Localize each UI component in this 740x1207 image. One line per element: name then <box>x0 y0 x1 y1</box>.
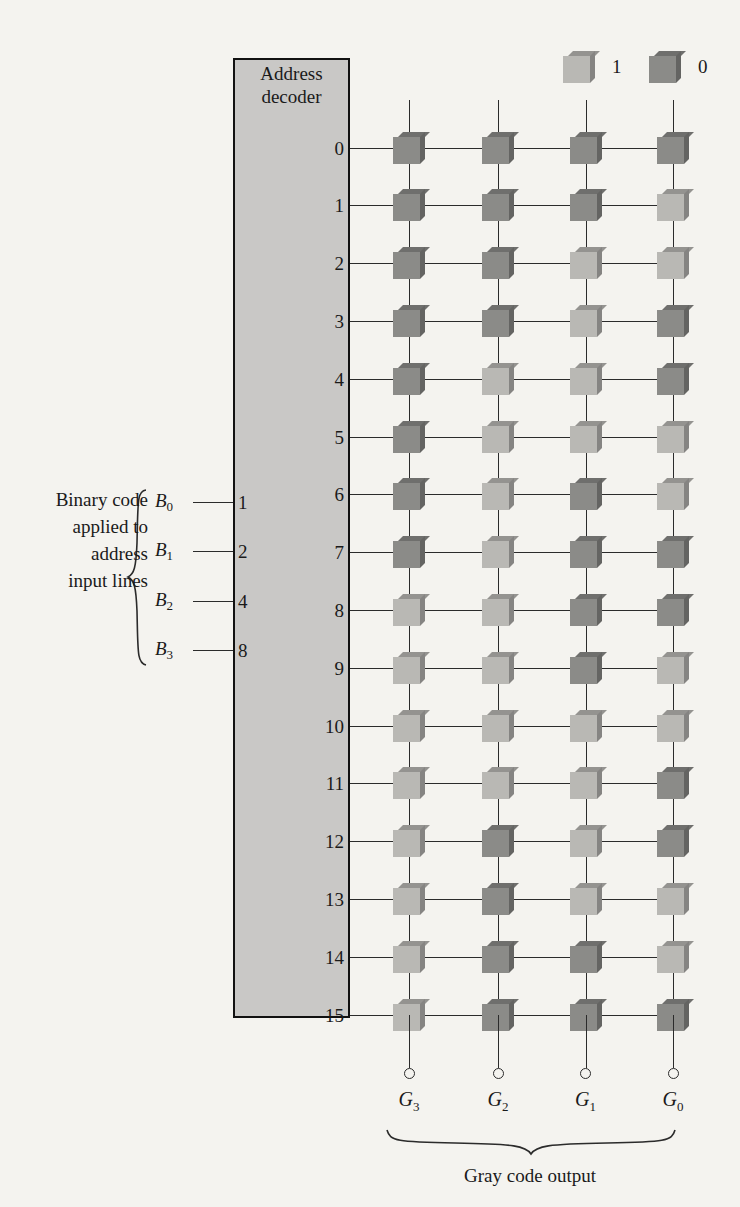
decoder-output-row-15: 15 <box>288 1005 344 1024</box>
cube-front-face <box>657 772 684 799</box>
cube-side-face <box>684 536 689 568</box>
input-caption-line-4: input lines <box>0 568 148 595</box>
cube-side-face <box>509 478 514 510</box>
input-label-b0: B0 <box>155 491 173 514</box>
decoder-output-row-4: 4 <box>288 369 344 388</box>
cube-side-face <box>420 652 425 684</box>
cube-front-face <box>393 830 420 857</box>
cube-front-face <box>570 715 597 742</box>
cube-side-face <box>420 421 425 453</box>
output-terminal-g3[interactable] <box>404 1068 415 1079</box>
legend-item: 0 <box>648 48 708 84</box>
cube-side-face <box>509 594 514 626</box>
cell-14-G1 <box>570 941 602 973</box>
cell-3-G2 <box>482 305 514 337</box>
cube-side-face <box>684 421 689 453</box>
cell-13-G3 <box>393 883 425 915</box>
cube-front-face <box>563 56 590 83</box>
cube-side-face <box>597 652 602 684</box>
cell-3-G1 <box>570 305 602 337</box>
cube-side-face <box>509 767 514 799</box>
output-terminal-g2[interactable] <box>493 1068 504 1079</box>
cell-0-G1 <box>570 132 602 164</box>
decoder-title-line1: Address <box>233 62 350 85</box>
cube-side-face <box>684 363 689 395</box>
cell-1-G1 <box>570 189 602 221</box>
decoder-title-line2: decoder <box>233 85 350 108</box>
cell-7-G0 <box>657 536 689 568</box>
cube-front-face <box>482 657 509 684</box>
cube-side-face <box>509 710 514 742</box>
cube-side-face <box>420 305 425 337</box>
cube-front-face <box>482 830 509 857</box>
cube-front-face <box>657 657 684 684</box>
input-weight-4: 4 <box>238 592 278 611</box>
output-label-g2: G2 <box>488 1089 509 1113</box>
cube-front-face <box>570 772 597 799</box>
cube-front-face <box>570 1004 597 1031</box>
cube-side-face <box>684 999 689 1031</box>
cell-0-G3 <box>393 132 425 164</box>
cube-front-face <box>570 426 597 453</box>
cell-7-G1 <box>570 536 602 568</box>
cell-11-G1 <box>570 767 602 799</box>
cube-side-face <box>684 710 689 742</box>
legend-label: 0 <box>698 57 708 76</box>
cube-front-face <box>657 888 684 915</box>
cube-side-face <box>597 132 602 164</box>
cube-front-face <box>482 310 509 337</box>
cube-side-face <box>597 189 602 221</box>
decoder-output-row-11: 11 <box>288 774 344 793</box>
cube-side-face <box>420 941 425 973</box>
cell-9-G2 <box>482 652 514 684</box>
cube-side-face <box>597 421 602 453</box>
cell-2-G0 <box>657 247 689 279</box>
input-weight-1: 1 <box>238 493 278 512</box>
cell-14-G2 <box>482 941 514 973</box>
cube-side-face <box>684 825 689 857</box>
decoder-output-row-12: 12 <box>288 832 344 851</box>
cube-front-face <box>393 426 420 453</box>
cube-front-face <box>482 1004 509 1031</box>
input-label-b2: B2 <box>155 590 173 613</box>
light-cube-icon <box>562 48 598 84</box>
cell-12-G1 <box>570 825 602 857</box>
cube-front-face <box>657 541 684 568</box>
cell-1-G3 <box>393 189 425 221</box>
cube-side-face <box>509 825 514 857</box>
input-wire-B1 <box>193 551 233 552</box>
cube-side-face <box>684 883 689 915</box>
cube-side-face <box>509 189 514 221</box>
cell-10-G3 <box>393 710 425 742</box>
cell-6-G1 <box>570 478 602 510</box>
input-caption-line-1: Binary code <box>0 487 148 514</box>
output-stub-G0 <box>673 1015 674 1069</box>
cube-front-face <box>393 310 420 337</box>
cell-9-G0 <box>657 652 689 684</box>
decoder-output-row-0: 0 <box>288 138 344 157</box>
cube-side-face <box>420 999 425 1031</box>
decoder-output-row-1: 1 <box>288 196 344 215</box>
cube-side-face <box>597 999 602 1031</box>
cube-front-face <box>482 541 509 568</box>
cell-8-G2 <box>482 594 514 626</box>
cube-front-face <box>393 137 420 164</box>
cube-side-face <box>509 247 514 279</box>
cell-4-G2 <box>482 363 514 395</box>
input-label-b1: B1 <box>155 540 173 563</box>
cell-4-G1 <box>570 363 602 395</box>
cube-side-face <box>509 883 514 915</box>
cube-front-face <box>570 541 597 568</box>
cube-side-face <box>597 767 602 799</box>
cell-1-G2 <box>482 189 514 221</box>
cube-front-face <box>393 368 420 395</box>
cube-front-face <box>570 252 597 279</box>
output-terminal-g0[interactable] <box>668 1068 679 1079</box>
cube-side-face <box>597 363 602 395</box>
cube-front-face <box>482 715 509 742</box>
decoder-output-row-3: 3 <box>288 311 344 330</box>
output-terminal-g1[interactable] <box>580 1068 591 1079</box>
dark-cube-icon <box>648 48 684 84</box>
cube-side-face <box>509 363 514 395</box>
cell-5-G2 <box>482 421 514 453</box>
